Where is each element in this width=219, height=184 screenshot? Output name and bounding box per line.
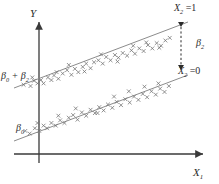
scatter-marker: [109, 58, 113, 62]
scatter-marker: [61, 72, 65, 76]
scatter-marker: [96, 58, 100, 62]
scatter-marker: [155, 41, 159, 45]
scatter-marker: [125, 54, 129, 58]
scatter-marker: [128, 101, 132, 105]
scatter-marker: [70, 73, 74, 77]
lower-line-label: X2 =0: [178, 66, 200, 78]
scatter-marker: [145, 95, 149, 99]
upper-intercept-label: β0 + β2: [1, 71, 29, 83]
scatter-marker: [150, 47, 154, 51]
scatter-marker: [50, 78, 54, 82]
scatter-marker: [73, 67, 77, 71]
scatter-marker: [81, 65, 85, 69]
scatter-marker: [131, 44, 135, 48]
lower-regression-line: [14, 75, 188, 141]
scatter-marker: [56, 114, 60, 118]
scatter-marker: [89, 66, 93, 70]
scatter-marker: [58, 118, 62, 122]
scatter-marker: [42, 124, 46, 128]
scatter-marker: [121, 51, 125, 55]
upper-line-label: X2 =1: [174, 3, 196, 15]
scatter-marker: [137, 47, 141, 51]
scatter-marker: [29, 84, 33, 88]
scatter-marker: [143, 85, 147, 89]
scatter-marker: [92, 60, 96, 64]
scatter-marker: [110, 106, 114, 110]
upper-regression-line: [14, 22, 188, 88]
scatter-marker: [50, 121, 54, 125]
chart-canvas: [0, 0, 219, 184]
scatter-marker: [113, 53, 117, 57]
shift-label: β2: [196, 38, 204, 50]
scatter-marker: [101, 62, 105, 66]
x-axis-label: X1: [193, 167, 203, 181]
scatter-marker: [42, 81, 46, 85]
scatter-marker: [56, 77, 60, 81]
scatter-marker: [158, 87, 162, 91]
scatter-marker: [163, 39, 167, 43]
scatter-marker: [76, 70, 80, 74]
scatter-marker: [168, 36, 172, 40]
lower-intercept-label: β0: [16, 123, 24, 135]
scatter-marker: [76, 118, 80, 122]
scatter-marker: [154, 93, 158, 97]
scatter-marker: [157, 46, 161, 50]
scatter-marker: [65, 68, 69, 72]
scatter-points-upper: [22, 36, 172, 88]
scatter-marker: [84, 114, 88, 118]
scatter-marker: [46, 76, 50, 80]
scatter-marker: [157, 81, 161, 85]
scatter-marker: [71, 113, 75, 117]
scatter-marker: [142, 49, 146, 53]
scatter-marker: [112, 95, 116, 99]
scatter-marker: [74, 107, 78, 111]
scatter-marker: [96, 111, 100, 115]
scatter-marker: [130, 48, 134, 52]
scatter-marker: [80, 111, 84, 115]
scatter-marker: [52, 74, 56, 78]
scatter-marker: [137, 98, 141, 102]
scatter-marker: [67, 63, 71, 67]
scatter-marker: [102, 109, 106, 113]
scatter-marker: [89, 108, 93, 112]
scatter-marker: [150, 89, 154, 93]
scatter-marker: [104, 55, 108, 59]
scatter-marker: [117, 56, 121, 60]
scatter-marker: [84, 62, 88, 66]
scatter-marker: [167, 84, 171, 88]
scatter-marker: [133, 52, 137, 56]
regression-dummy-variable-chart: Y X1 X2 =1 X2 =0 β2 β0 + β2 β0: [0, 0, 219, 184]
scatter-marker: [119, 103, 123, 107]
scatter-marker: [67, 116, 71, 120]
scatter-marker: [127, 89, 131, 93]
scatter-marker: [163, 90, 167, 94]
scatter-marker: [33, 126, 37, 130]
scatter-marker: [116, 60, 120, 64]
y-axis-label: Y: [30, 8, 36, 19]
scatter-marker: [83, 70, 87, 74]
axes-group: [14, 22, 203, 163]
